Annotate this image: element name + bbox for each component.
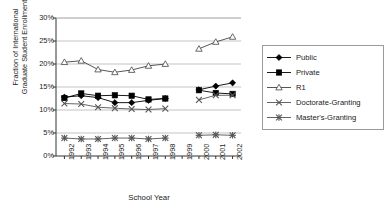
marker-open-triangle	[229, 34, 235, 40]
marker-open-triangle	[78, 58, 84, 64]
legend-item-master-s-granting[interactable]: Master's-Granting	[266, 110, 380, 125]
marker-filled-square	[163, 96, 168, 101]
legend-marker-cross-x-icon	[266, 96, 292, 109]
y-tick-label: 10%	[28, 106, 54, 113]
series-private	[62, 88, 236, 103]
legend-label: Master's-Granting	[292, 113, 356, 122]
legend-item-private[interactable]: Private	[266, 65, 380, 80]
y-tick-label: 20%	[28, 60, 54, 67]
legend-marker-filled-diamond-icon	[266, 51, 292, 64]
legend-item-public[interactable]: Public	[266, 50, 380, 65]
marker-filled-square	[129, 93, 134, 98]
legend-label: Private	[292, 68, 320, 77]
series-r1	[61, 34, 236, 75]
x-tick-label: 1995	[118, 144, 125, 160]
legend-item-doctorate-granting[interactable]: Doctorate-Granting	[266, 95, 380, 110]
y-tick-label: 30%	[28, 14, 54, 21]
x-tick-label: 2000	[203, 144, 210, 160]
x-tick-label: 1996	[135, 144, 142, 160]
x-tick-label: 1993	[85, 144, 92, 160]
y-tick-label: 15%	[28, 83, 54, 90]
legend-marker-open-triangle-icon	[266, 81, 292, 94]
marker-filled-square	[196, 88, 201, 93]
marker-filled-diamond	[276, 54, 282, 60]
marker-filled-diamond	[229, 80, 235, 86]
legend-marker-asterisk-icon	[266, 111, 292, 124]
legend-label: Public	[292, 53, 317, 62]
marker-open-triangle	[196, 46, 202, 52]
chart-figure: Fraction of International Graduate Stude…	[0, 0, 389, 212]
legend-label: Doctorate-Granting	[292, 98, 361, 107]
x-tick-label: 2001	[219, 144, 226, 160]
y-axis-tick-labels: 0%5%10%15%20%25%30%	[28, 0, 54, 212]
marker-filled-square	[112, 93, 117, 98]
x-tick-label: 1997	[152, 144, 159, 160]
marker-filled-square	[79, 91, 84, 96]
marker-filled-square	[62, 95, 67, 100]
marker-open-triangle	[95, 66, 101, 72]
chart-legend: PublicPrivateR1Doctorate-GrantingMaster'…	[262, 45, 384, 130]
x-tick-label: 1999	[186, 144, 193, 160]
y-tick-label: 0%	[28, 152, 54, 159]
x-tick-label: 1994	[102, 144, 109, 160]
marker-filled-square	[95, 93, 100, 98]
legend-item-r1[interactable]: R1	[266, 80, 380, 95]
x-axis-title: School Year	[56, 193, 242, 202]
marker-filled-diamond	[129, 100, 135, 106]
legend-marker-filled-square-icon	[266, 66, 292, 79]
marker-filled-diamond	[112, 100, 118, 106]
marker-filled-diamond	[213, 83, 219, 89]
x-tick-label: 1998	[169, 144, 176, 160]
legend-label: R1	[292, 83, 306, 92]
marker-filled-square	[276, 70, 281, 75]
marker-filled-square	[146, 97, 151, 102]
y-tick-label: 5%	[28, 129, 54, 136]
y-tick-label: 25%	[28, 37, 54, 44]
x-tick-label: 2002	[236, 144, 243, 160]
x-tick-label: 1992	[68, 144, 75, 160]
